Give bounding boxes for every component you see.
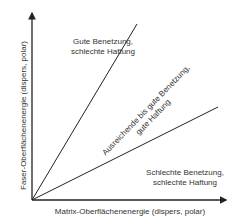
region-label-lower: Schlechte Benetzung, schlechte Haftung (135, 168, 235, 188)
region-lower-line1: Schlechte Benetzung, (135, 168, 235, 178)
x-axis-label: Matrix-Oberflächenenergie (dispers, pola… (40, 207, 220, 217)
y-axis-label: Faser-Oberflächenenergie (dispers, polar… (19, 41, 28, 191)
region-upper-line2: schlechte Haftung (58, 47, 148, 57)
region-lower-line2: schlechte Haftung (135, 178, 235, 188)
region-label-upper: Gute Benetzung, schlechte Haftung (58, 37, 148, 57)
diagram-canvas (0, 0, 239, 223)
region-upper-line1: Gute Benetzung, (58, 37, 148, 47)
